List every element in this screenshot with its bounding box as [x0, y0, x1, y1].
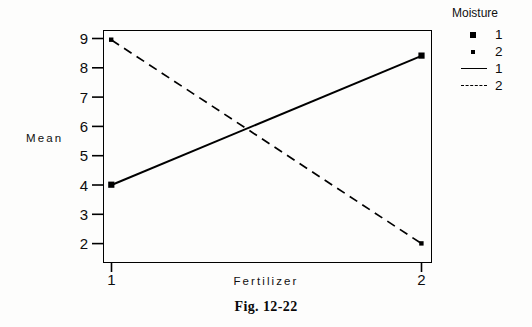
legend: Moisture 1 2 1 2 — [452, 6, 530, 94]
legend-entry-marker-1[interactable]: 1 — [460, 26, 530, 43]
line-dashed-icon — [460, 77, 490, 94]
legend-label: 2 — [495, 79, 503, 93]
marker-square-small-icon — [460, 43, 490, 60]
figure-container: 9 8 7 6 5 4 3 2 1 2 Mean Fertilizer Mois… — [0, 0, 532, 327]
plot-frame — [103, 30, 432, 263]
marker-square-large-icon — [460, 26, 490, 43]
legend-title: Moisture — [452, 6, 530, 20]
x-axis-ticks — [112, 263, 422, 272]
legend-label: 2 — [495, 45, 503, 59]
x-axis-title: Fertilizer — [0, 275, 532, 287]
y-axis-ticks — [92, 39, 103, 244]
legend-entry-line-1[interactable]: 1 — [460, 60, 530, 77]
y-axis-title: Mean — [26, 132, 63, 144]
legend-entry-line-2[interactable]: 2 — [460, 77, 530, 94]
legend-entry-marker-2[interactable]: 2 — [460, 43, 530, 60]
line-solid-icon — [460, 60, 490, 77]
figure-caption: Fig. 12-22 — [0, 299, 532, 315]
legend-label: 1 — [495, 62, 503, 76]
legend-label: 1 — [495, 28, 503, 42]
